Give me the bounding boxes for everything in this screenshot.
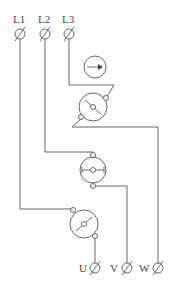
label-l1: L1 xyxy=(13,13,25,25)
switch-contact-1-icon xyxy=(79,93,109,121)
switch-contact-3-icon xyxy=(70,208,98,239)
terminal-v xyxy=(122,261,132,275)
label-w: W xyxy=(139,262,150,274)
terminal-l2 xyxy=(40,27,50,41)
label-l2: L2 xyxy=(38,13,50,25)
label-u: U xyxy=(79,262,87,274)
terminal-l1 xyxy=(15,27,25,41)
rotation-indicator-icon xyxy=(84,56,106,78)
switch-contact-2-icon xyxy=(80,153,106,189)
wiring-diagram: L1 L2 L3 xyxy=(0,0,174,291)
wire-to-v xyxy=(95,186,127,263)
terminal-u xyxy=(90,261,100,275)
label-v: V xyxy=(110,262,118,274)
wire-to-w xyxy=(72,119,158,263)
terminal-w xyxy=(153,261,163,275)
label-l3: L3 xyxy=(62,13,75,25)
terminal-l3 xyxy=(64,27,74,41)
